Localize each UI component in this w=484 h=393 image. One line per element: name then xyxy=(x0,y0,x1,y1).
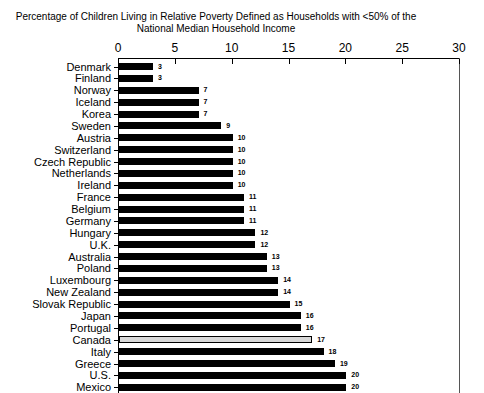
category-label: Italy xyxy=(0,346,111,358)
value-label: 12 xyxy=(260,229,268,237)
bar xyxy=(119,87,199,94)
y-axis-tick xyxy=(114,316,118,317)
x-axis-tick-label: 30 xyxy=(452,42,465,55)
chart-title: Percentage of Children Living in Relativ… xyxy=(0,11,432,35)
y-axis-tick xyxy=(114,340,118,341)
chart-title-line1: Percentage of Children Living in Relativ… xyxy=(0,11,432,23)
value-label: 15 xyxy=(295,300,303,308)
category-label: U.K. xyxy=(0,239,111,251)
category-label: Netherlands xyxy=(0,167,111,179)
y-axis-tick xyxy=(114,268,118,269)
category-label: Austria xyxy=(0,132,111,144)
y-axis-tick xyxy=(114,197,118,198)
y-axis-tick xyxy=(114,114,118,115)
category-label: Canada xyxy=(0,334,111,346)
value-label: 10 xyxy=(238,134,246,142)
value-label: 11 xyxy=(249,205,256,213)
value-label: 14 xyxy=(283,288,291,296)
x-axis-tick-label: 15 xyxy=(282,42,295,55)
value-label: 11 xyxy=(249,193,256,201)
value-label: 11 xyxy=(249,217,256,225)
bar xyxy=(119,206,244,213)
bar xyxy=(119,360,335,367)
value-label: 14 xyxy=(283,276,291,284)
bar xyxy=(119,63,153,70)
bar xyxy=(119,277,278,284)
bar xyxy=(119,194,244,201)
category-label: Hungary xyxy=(0,227,111,239)
y-axis-tick xyxy=(114,375,118,376)
x-axis-tick xyxy=(175,59,176,64)
category-label: Germany xyxy=(0,215,111,227)
category-label: Portugal xyxy=(0,322,111,334)
category-label: Switzerland xyxy=(0,144,111,156)
value-label: 7 xyxy=(204,110,208,118)
category-label: Sweden xyxy=(0,120,111,132)
x-axis-tick xyxy=(459,59,460,64)
value-label: 16 xyxy=(306,312,314,320)
value-label: 3 xyxy=(158,74,162,82)
bar xyxy=(119,301,290,308)
bar xyxy=(119,182,233,189)
category-label: Greece xyxy=(0,358,111,370)
x-axis-tick-label: 25 xyxy=(395,42,408,55)
bar xyxy=(119,289,278,296)
value-label: 10 xyxy=(238,146,246,154)
chart-title-line2: National Median Household Income xyxy=(0,23,432,35)
category-label: Czech Republic xyxy=(0,156,111,168)
x-axis-tick-label: 10 xyxy=(225,42,238,55)
y-axis-tick xyxy=(114,292,118,293)
bar xyxy=(119,229,255,236)
value-label: 18 xyxy=(329,348,337,356)
bar-highlighted xyxy=(119,336,312,343)
y-axis-tick xyxy=(114,90,118,91)
x-axis-tick xyxy=(345,59,346,64)
value-label: 10 xyxy=(238,181,246,189)
y-axis-tick xyxy=(114,364,118,365)
category-label: France xyxy=(0,191,111,203)
y-axis-tick xyxy=(114,173,118,174)
category-label: Finland xyxy=(0,72,111,84)
value-label: 10 xyxy=(238,169,246,177)
y-axis-tick xyxy=(114,150,118,151)
plot-right-border xyxy=(459,58,460,393)
bar xyxy=(119,384,346,391)
value-label: 17 xyxy=(317,336,325,344)
x-axis-tick xyxy=(402,59,403,64)
bar xyxy=(119,111,199,118)
category-label: Korea xyxy=(0,108,111,120)
category-label: Iceland xyxy=(0,96,111,108)
y-axis-tick xyxy=(114,162,118,163)
y-axis-tick xyxy=(114,245,118,246)
value-label: 13 xyxy=(272,264,280,272)
x-axis-tick-label: 0 xyxy=(115,42,122,55)
bar xyxy=(119,324,301,331)
y-axis-tick xyxy=(114,67,118,68)
y-axis-tick xyxy=(114,257,118,258)
y-axis-tick xyxy=(114,304,118,305)
bar xyxy=(119,170,233,177)
value-label: 12 xyxy=(260,241,268,249)
bar-chart-figure: Percentage of Children Living in Relativ… xyxy=(0,0,484,393)
y-axis-tick xyxy=(114,280,118,281)
category-label: Japan xyxy=(0,310,111,322)
y-axis-tick xyxy=(114,233,118,234)
value-label: 20 xyxy=(351,383,359,391)
value-label: 9 xyxy=(226,122,230,130)
bar xyxy=(119,146,233,153)
bar xyxy=(119,241,255,248)
value-label: 16 xyxy=(306,324,314,332)
category-label: Poland xyxy=(0,262,111,274)
y-axis-tick xyxy=(114,126,118,127)
x-axis-tick-label: 20 xyxy=(339,42,352,55)
value-label: 20 xyxy=(351,371,359,379)
category-label: Slovak Republic xyxy=(0,298,111,310)
bar xyxy=(119,372,346,379)
bar xyxy=(119,253,267,260)
bar xyxy=(119,348,324,355)
y-axis-tick xyxy=(114,328,118,329)
bar xyxy=(119,99,199,106)
value-label: 3 xyxy=(158,63,162,71)
category-label: Luxembourg xyxy=(0,274,111,286)
category-label: Belgium xyxy=(0,203,111,215)
